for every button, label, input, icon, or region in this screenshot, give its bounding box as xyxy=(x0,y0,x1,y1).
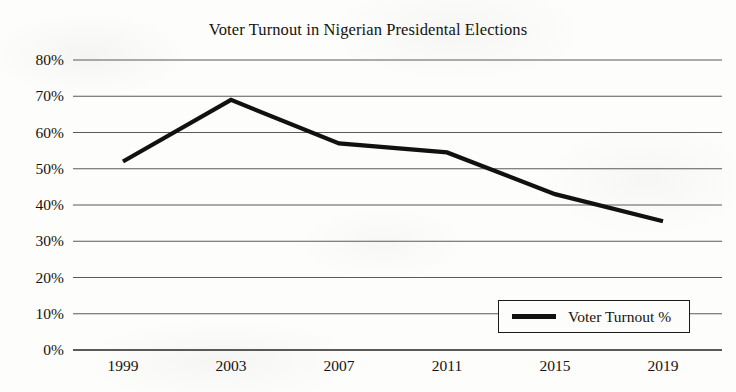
series-line-voter-turnout xyxy=(123,100,663,221)
y-axis-tick-label: 30% xyxy=(8,232,64,250)
y-axis-tick-label: 70% xyxy=(8,87,64,105)
x-axis-tick-label: 2011 xyxy=(407,357,487,375)
y-axis-tick-label: 40% xyxy=(8,196,64,214)
y-axis-tick-label: 60% xyxy=(8,124,64,142)
y-axis-tick-label: 20% xyxy=(8,269,64,287)
x-axis-tick-label: 2003 xyxy=(191,357,271,375)
x-axis-tick-label: 2007 xyxy=(299,357,379,375)
y-axis-tick-label: 10% xyxy=(8,305,64,323)
y-axis-tick-label: 80% xyxy=(8,51,64,69)
chart-legend: Voter Turnout % xyxy=(498,300,690,333)
x-axis-tick-label: 2015 xyxy=(515,357,595,375)
legend-label: Voter Turnout % xyxy=(568,308,671,326)
legend-line-swatch-icon xyxy=(512,314,556,319)
y-axis-tick-label: 0% xyxy=(8,341,64,359)
y-axis-tick-label: 50% xyxy=(8,160,64,178)
chart-page: Voter Turnout in Nigerian Presidental El… xyxy=(0,0,736,392)
x-axis-tick-label: 1999 xyxy=(83,357,163,375)
chart-plot-area xyxy=(0,0,736,392)
x-axis-tick-label: 2019 xyxy=(623,357,703,375)
